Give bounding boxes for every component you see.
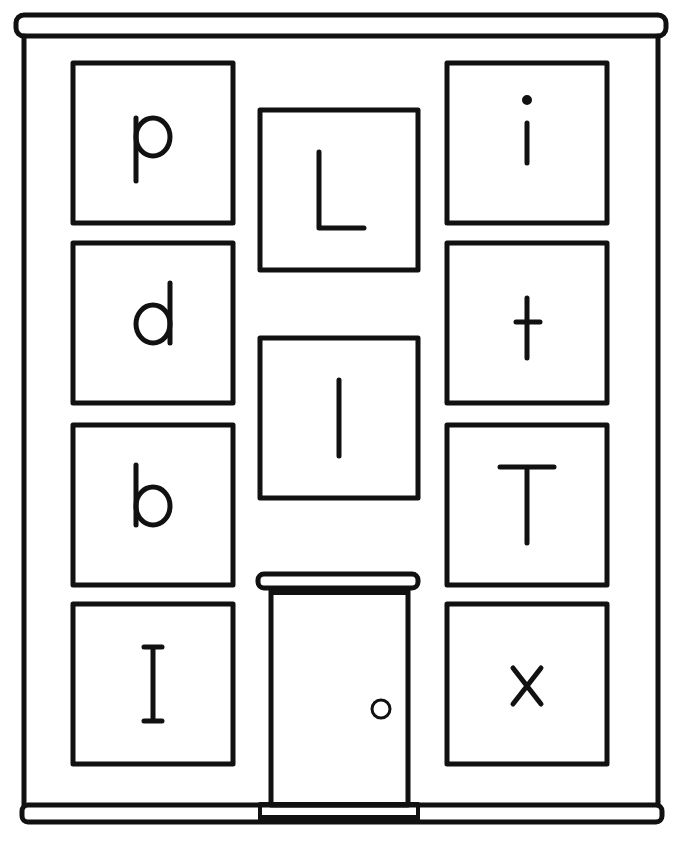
window-right-1[interactable]: i [447, 63, 607, 223]
window-frame [73, 425, 233, 585]
window-left-3[interactable]: b [73, 425, 233, 585]
window-right-3[interactable]: T [447, 425, 607, 585]
roof-bar [16, 15, 666, 36]
door-step-shadow [260, 815, 418, 822]
letter-I: I [144, 647, 162, 721]
window-right-4[interactable]: x [447, 604, 607, 764]
window-left-1[interactable]: p [73, 63, 233, 223]
window-right-2[interactable]: t [447, 243, 607, 403]
window-frame [260, 110, 418, 270]
door-knob-icon [372, 700, 390, 718]
letter-x: x [513, 668, 541, 704]
building-worksheet: pdbILlitTx [0, 0, 682, 842]
door[interactable] [271, 591, 408, 805]
window-frame [73, 243, 233, 403]
door-lintel [258, 574, 418, 588]
window-middle-2[interactable]: l [260, 338, 418, 498]
window-middle-1[interactable]: L [260, 110, 418, 270]
letter-L: L [319, 152, 364, 228]
window-frame [73, 63, 233, 223]
window-left-4[interactable]: I [73, 604, 233, 764]
letter-b: b [136, 465, 170, 525]
letter-i: i [525, 98, 530, 164]
letter-p: p [136, 118, 170, 181]
letter-t: t [516, 298, 540, 358]
letter-T: T [500, 467, 554, 543]
window-left-2[interactable]: d [73, 243, 233, 403]
letter-d: d [136, 283, 170, 343]
